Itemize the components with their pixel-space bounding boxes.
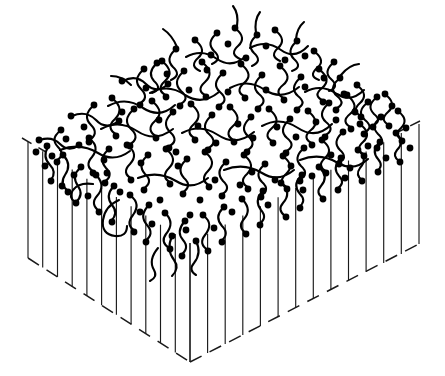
polymer-brush-illustration — [0, 0, 445, 376]
polymer-brush-figure — [0, 0, 445, 376]
figure-background — [0, 0, 445, 376]
